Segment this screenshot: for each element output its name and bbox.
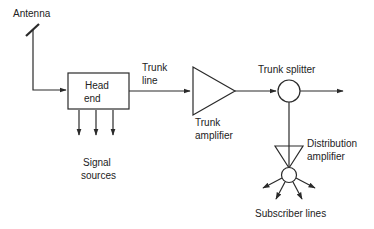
- subscriber-tap-circle: [282, 168, 297, 183]
- subscriber-line-arrow: [296, 178, 315, 188]
- diagram-graphics: [0, 0, 374, 229]
- subscriber-line-arrow: [263, 178, 282, 188]
- trunk-amplifier-label-line2: amplifier: [195, 130, 233, 141]
- head-end-label-line2: end: [84, 93, 101, 104]
- trunk-splitter-label: Trunk splitter: [258, 64, 315, 75]
- trunk-line-label-line1: Trunk: [142, 62, 167, 73]
- head-end-label-line1: Head: [85, 80, 109, 91]
- antenna-label: Antenna: [13, 8, 50, 19]
- signal-sources-label-line1: Signal: [83, 157, 111, 168]
- trunk-amplifier-label-line1: Trunk: [195, 117, 220, 128]
- antenna-feed-line: [33, 30, 66, 90]
- trunk-line-label-line2: line: [142, 75, 158, 86]
- trunk-splitter-circle: [278, 80, 300, 102]
- subscriber-lines-label: Subscriber lines: [255, 208, 326, 219]
- subscriber-line-arrow: [276, 182, 285, 199]
- trunk-amplifier-triangle: [193, 67, 235, 115]
- signal-sources-label-line2: sources: [81, 170, 116, 181]
- subscriber-line-arrow: [293, 182, 302, 199]
- distribution-amplifier-label-line1: Distribution: [307, 138, 357, 149]
- cable-distribution-diagram: Antenna Head end Trunk line Trunk amplif…: [0, 0, 374, 229]
- distribution-amplifier-label-line2: amplifier: [307, 151, 345, 162]
